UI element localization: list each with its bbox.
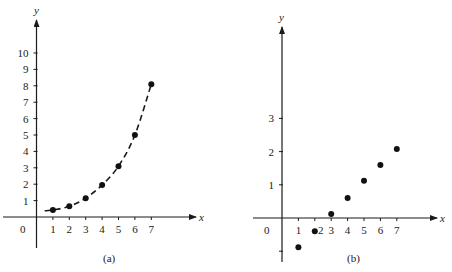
data-point — [99, 182, 105, 188]
chart-a: 1234567 12345678910 x y 0 (a) — [3, 4, 204, 265]
data-point — [148, 81, 154, 87]
y-tick-label: 2 — [269, 146, 275, 158]
x-tick-label: 1 — [50, 223, 56, 235]
data-point — [361, 178, 367, 184]
x-tick-label: 7 — [149, 223, 155, 235]
data-point — [50, 207, 56, 213]
x-tick-label: 6 — [132, 223, 138, 235]
y-tick-label: 1 — [23, 195, 29, 207]
x-axis-label: x — [439, 212, 445, 224]
chart-b: 1234567 123 x y 0 (b) — [253, 11, 445, 265]
y-tick-label: 6 — [23, 113, 29, 125]
y-tick-label: 3 — [23, 162, 29, 174]
caption-a: (a) — [103, 252, 116, 265]
dashed-curve — [45, 84, 152, 211]
data-point — [345, 195, 351, 201]
x-axis-label: x — [198, 211, 204, 223]
x-tick-label: 5 — [116, 223, 122, 235]
x-tick-label: 6 — [378, 224, 384, 236]
data-point — [83, 195, 89, 201]
x-tick-label: 3 — [83, 223, 89, 235]
data-point — [377, 162, 383, 168]
y-ticks: 123 — [269, 112, 284, 251]
y-tick-label: 4 — [23, 145, 29, 157]
data-points — [50, 81, 154, 213]
y-tick-label: 5 — [23, 129, 29, 141]
data-point — [66, 203, 72, 209]
x-tick-label: 4 — [99, 223, 105, 235]
data-point — [312, 228, 318, 234]
y-axis-label: y — [33, 4, 39, 16]
x-tick-label: 5 — [361, 224, 367, 236]
x-tick-label: 2 — [67, 223, 73, 235]
y-axis-label: y — [278, 11, 284, 23]
figure: 1234567 12345678910 x y 0 (a) 1234567 12… — [0, 0, 452, 272]
origin-label: 0 — [20, 223, 26, 235]
y-ticks: 12345678910 — [18, 47, 38, 207]
x-ticks: 1234567 — [50, 217, 154, 235]
data-point — [132, 132, 138, 138]
data-point — [116, 163, 122, 169]
y-tick-label: 2 — [23, 178, 29, 190]
y-tick-label: 7 — [23, 96, 29, 108]
x-tick-label: 4 — [345, 224, 351, 236]
y-tick-label: 1 — [269, 179, 275, 191]
y-tick-label: 8 — [23, 80, 29, 92]
x-tick-label: 1 — [296, 224, 302, 236]
x-tick-label: 7 — [394, 224, 400, 236]
y-tick-label: 3 — [269, 112, 275, 124]
x-ticks: 1234567 — [296, 218, 400, 236]
data-point — [295, 244, 301, 250]
data-point — [328, 211, 334, 217]
origin-label: 0 — [264, 224, 270, 236]
y-tick-label: 10 — [18, 47, 30, 59]
caption-b: (b) — [347, 252, 360, 265]
data-point — [394, 146, 400, 152]
y-tick-label: 9 — [23, 63, 29, 75]
x-tick-label: 2 — [318, 224, 324, 236]
x-tick-label: 3 — [328, 224, 334, 236]
